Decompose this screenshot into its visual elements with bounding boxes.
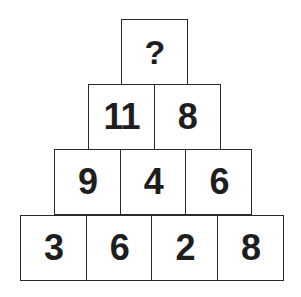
number-cell: 8 <box>217 215 284 281</box>
number-cell: 2 <box>151 215 218 281</box>
number-cell: 9 <box>54 149 121 215</box>
number-cell: 4 <box>120 149 187 215</box>
pyramid-row-3: 9 4 6 <box>54 149 251 215</box>
pyramid-row-base: 3 6 2 8 <box>20 215 283 281</box>
unknown-cell: ? <box>121 19 188 85</box>
pyramid-row-2: 11 8 <box>88 84 219 150</box>
number-cell: 3 <box>20 215 87 281</box>
number-pyramid: ? 11 8 9 4 6 3 6 2 8 <box>0 0 301 297</box>
number-cell: 11 <box>88 84 155 150</box>
pyramid-row-top: ? <box>121 19 187 85</box>
number-cell: 6 <box>185 149 252 215</box>
number-cell: 6 <box>86 215 153 281</box>
number-cell: 8 <box>154 84 221 150</box>
